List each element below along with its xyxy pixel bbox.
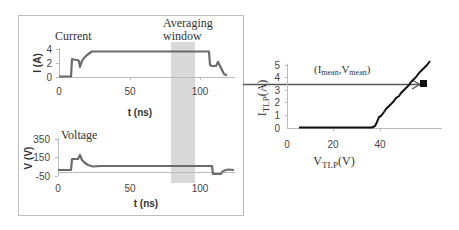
voltage-xtick: 100 xyxy=(192,183,209,194)
tlp-xtick: 40 xyxy=(374,139,386,150)
tlp-ytick: 1 xyxy=(274,110,280,121)
voltage-xlabel: t (ns) xyxy=(134,198,158,209)
current-xtick: 100 xyxy=(192,86,209,97)
tlp-ytick: 5 xyxy=(274,60,280,71)
voltage-ytick: -50 xyxy=(36,171,51,182)
current-xtick: 50 xyxy=(124,86,136,97)
averaging-window-label-2: window xyxy=(163,29,202,43)
averaging-window-label-1: Averaging xyxy=(163,16,213,30)
current-ytick: 2 xyxy=(46,58,52,69)
mean-point-marker xyxy=(420,80,427,87)
voltage-xtick: 0 xyxy=(55,183,61,194)
tlp-measurement-diagram: Averaging window Current 4 2 0 I (A) 0 5… xyxy=(0,0,459,230)
voltage-ytick: 150 xyxy=(33,152,50,163)
voltage-ytick: 350 xyxy=(33,134,50,145)
tlp-ytick: 2 xyxy=(274,97,280,108)
tlp-ytick: 3 xyxy=(274,85,280,96)
current-xlabel: t (ns) xyxy=(128,107,152,118)
tlp-ylabel: ITLP(A) xyxy=(255,80,271,117)
averaging-window-band xyxy=(171,42,195,183)
voltage-xtick: 50 xyxy=(124,183,136,194)
tlp-ytick: 4 xyxy=(274,72,280,83)
tlp-xtick: 0 xyxy=(284,139,290,150)
voltage-plot-title: Voltage xyxy=(61,128,97,142)
tlp-ytick: 0 xyxy=(274,123,280,134)
current-ylabel: I (A) xyxy=(32,53,43,72)
mean-point-annotation: (Imean,Vmean) xyxy=(314,63,371,77)
current-ytick: 4 xyxy=(46,44,52,55)
tlp-xlabel: VTLP(V) xyxy=(313,154,354,170)
voltage-ylabel: V (V) xyxy=(23,147,34,170)
tlp-xtick: 20 xyxy=(327,139,339,150)
current-xtick: 0 xyxy=(56,86,62,97)
current-plot-title: Current xyxy=(55,29,92,43)
tlp-iv-plot: 5 4 3 2 1 0 ITLP(A) 0 20 40 VTLP(V) (Ime… xyxy=(255,60,442,170)
current-ytick: 0 xyxy=(46,72,52,83)
